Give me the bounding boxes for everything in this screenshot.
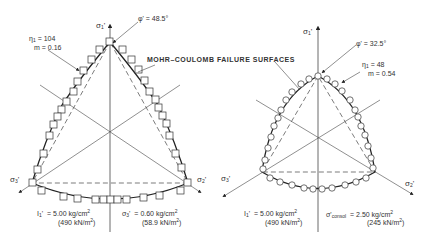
left-eta-label: η1 = 104 [29,35,55,44]
right-sigma2-label: σ2' [405,180,414,189]
right-i1-si: (490 kN/m2) [265,216,302,227]
eta-leader-right [343,72,360,82]
left-sigma2-label: σ2' [197,176,206,185]
right-m-label: m = 0.54 [368,70,395,78]
right-consol-si: (245 kN/m2) [367,216,404,227]
left-diagram [20,22,200,232]
left-sigma1-label: σ1' [96,22,105,31]
mc-leader-right [275,62,300,90]
right-sigma1-label: σ1' [303,28,312,37]
mohr-coulomb-title: MOHR–COULOMB FAILURE SURFACES [147,56,295,64]
right-eta-label: η1 = 48 [362,61,384,70]
phi-leader-right [323,45,356,72]
eta-leader-left [48,50,78,70]
left-phi-label: φ' = 48.5° [138,15,168,23]
phi-leader-left [114,22,138,42]
left-sigma3-label: σ3' [10,176,19,185]
right-sigma3-label: σ3' [221,175,230,184]
failure-surface-figure: σ1' σ3' σ2' φ' = 48.5° η1 = 104 m = 0.16… [0,0,425,235]
left-i1-si: (490 kN/m2) [58,216,95,227]
diagram-canvas [0,0,425,235]
mohr-coulomb-surface-right [262,76,375,172]
left-sigma3-si: (58.9 kN/m2) [142,216,181,227]
lade-surface-right [262,76,375,189]
right-phi-label: φ' = 32.5° [356,40,386,48]
left-m-label: m = 0.16 [34,44,61,52]
